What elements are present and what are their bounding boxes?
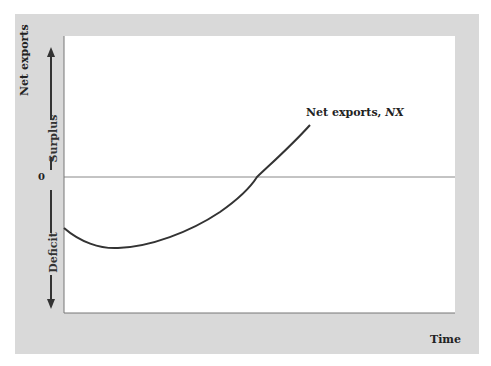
net-exports-curve	[64, 125, 310, 248]
zero-tick-label: 0	[38, 171, 45, 182]
surplus-label: Surplus	[47, 115, 60, 163]
chart-graphics	[0, 0, 491, 366]
series-label: Net exports, NX	[306, 106, 404, 119]
y-axis-label: Net exports	[18, 24, 31, 96]
x-axis-label: Time	[430, 333, 461, 346]
series-label-italic: NX	[385, 106, 404, 119]
series-label-plain: Net exports,	[306, 106, 385, 119]
deficit-label: Deficit	[47, 232, 60, 273]
